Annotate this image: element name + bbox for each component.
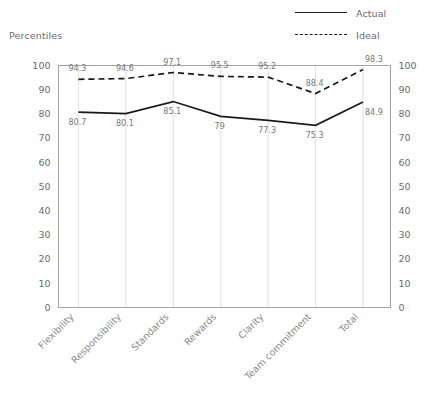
- y-tick-label-right: 80: [399, 108, 411, 119]
- y-tick-label-left: 40: [38, 205, 50, 216]
- data-point-label: 98.3: [365, 55, 383, 64]
- y-tick-label-right: 30: [399, 229, 411, 240]
- y-axis-right-ticks: 0102030405060708090100: [399, 60, 417, 313]
- data-point-label: 75.3: [306, 131, 324, 140]
- x-axis-label: Flexibility: [36, 311, 76, 351]
- plot-frame: [59, 66, 391, 308]
- y-tick-label-right: 60: [399, 157, 411, 168]
- x-axis-label: Standards: [129, 311, 171, 353]
- y-tick-label-right: 70: [399, 132, 411, 143]
- data-point-label: 84.9: [365, 108, 383, 117]
- y-tick-label-left: 90: [38, 84, 50, 95]
- data-point-label: 77.3: [258, 126, 276, 135]
- y-tick-label-right: 40: [399, 205, 411, 216]
- data-point-label: 95.2: [258, 62, 276, 71]
- gridlines-group: [78, 66, 363, 308]
- data-point-label: 85.1: [163, 107, 181, 116]
- y-tick-label-right: 100: [399, 60, 417, 71]
- data-point-label: 80.7: [69, 118, 87, 127]
- y-tick-label-left: 100: [32, 60, 50, 71]
- y-tick-label-right: 50: [399, 181, 411, 192]
- chart-plot: 0102030405060708090100 01020304050607080…: [0, 0, 443, 396]
- chart-container: Actual Ideal Percentiles 010203040506070…: [0, 0, 443, 396]
- y-tick-label-right: 10: [399, 278, 411, 289]
- y-tick-label-left: 30: [38, 229, 50, 240]
- data-point-label: 94.6: [116, 64, 134, 73]
- data-point-label: 95.5: [211, 61, 229, 70]
- y-tick-label-left: 70: [38, 132, 50, 143]
- data-point-label: 97.1: [163, 58, 181, 67]
- y-tick-label-left: 20: [38, 253, 50, 264]
- y-tick-label-right: 20: [399, 253, 411, 264]
- y-axis-left-ticks: 0102030405060708090100: [32, 60, 50, 313]
- y-tick-label-right: 0: [399, 302, 405, 313]
- data-point-label: 94.3: [69, 64, 87, 73]
- data-point-label: 79: [215, 122, 225, 131]
- y-tick-label-left: 50: [38, 181, 50, 192]
- x-axis-label: Responsibility: [69, 311, 124, 366]
- y-tick-label-left: 0: [44, 302, 50, 313]
- y-tick-label-left: 60: [38, 157, 50, 168]
- x-axis-label: Clarity: [236, 311, 266, 341]
- data-labels-actual: 80.780.185.17977.375.384.9: [69, 107, 383, 140]
- y-tick-label-left: 80: [38, 108, 50, 119]
- data-point-label: 80.1: [116, 119, 134, 128]
- y-tick-label-left: 10: [38, 278, 50, 289]
- y-tick-label-right: 90: [399, 84, 411, 95]
- x-axis-category-labels: FlexibilityResponsibilityStandardsReward…: [36, 311, 360, 383]
- x-axis-label: Rewards: [182, 311, 218, 347]
- data-point-label: 88.4: [306, 79, 324, 88]
- x-axis-label: Total: [336, 311, 360, 335]
